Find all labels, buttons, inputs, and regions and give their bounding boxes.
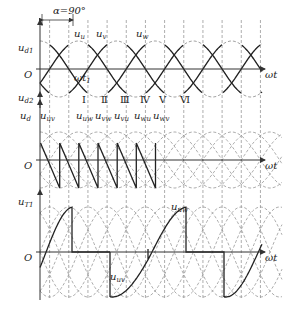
uT1-uw-annotation: uuw [171,202,188,214]
axes [36,14,265,300]
interval-roman-5: Ⅴ [159,95,166,105]
interval-roman-4: Ⅳ [140,95,150,105]
uT1-axis-label: uT1 [18,197,34,209]
phase-v-label: uv [96,29,106,41]
ud1-axis-label: ud1 [18,43,33,55]
interval-uv-label: uuv [40,111,55,123]
phase-u-label: uu [74,29,85,41]
interval-roman-3: Ⅲ [120,95,130,105]
interval-voltage-4: uwu [134,111,151,123]
origin-label-3: O [24,253,32,263]
origin-label-1: O [24,70,32,80]
interval-voltage-2: uvw [95,111,111,123]
omega-t-label-3: ωt [265,253,277,263]
waveform-diagram [0,0,292,313]
interval-voltage-3: uvu [114,111,129,123]
omega-t-label-2: ωt [265,161,277,171]
interval-roman-1: Ⅰ [82,95,86,105]
omega-t1-label: ωt1 [74,73,91,85]
uT1-uv-annotation: uuv [110,272,125,284]
interval-voltage-1: uuw [76,111,93,123]
omega-t-label-1: ωt [265,70,277,80]
ud2-axis-label: ud2 [18,93,33,105]
phase-w-label: uw [136,29,148,41]
ud-axis-label: ud [20,111,31,123]
alpha-label: α=90° [53,6,86,16]
interval-roman-6: Ⅵ [180,95,190,105]
interval-voltage-5: uwv [153,111,169,123]
interval-roman-2: Ⅱ [101,95,108,105]
origin-label-2: O [24,161,32,171]
